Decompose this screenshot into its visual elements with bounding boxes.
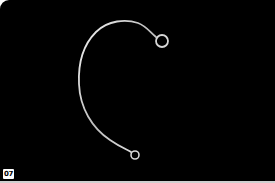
earring-hook-illustration [0, 0, 275, 181]
hook-wire [79, 21, 156, 152]
bottom-loop [131, 151, 139, 159]
bottom-border [0, 181, 275, 183]
top-loop [156, 35, 168, 47]
image-number-badge: 07 [3, 169, 14, 179]
product-image-panel: 07 [0, 0, 275, 181]
